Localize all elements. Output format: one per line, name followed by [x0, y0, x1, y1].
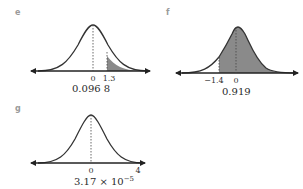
result-value-f: 0.919	[222, 86, 251, 97]
tick-label: −1.4	[204, 76, 223, 85]
normal-curve-f: −1.4 0	[150, 0, 303, 95]
bell-curve	[38, 115, 143, 163]
result-base: 3.17 × 10	[74, 176, 124, 187]
normal-curve-g: 0 4	[0, 95, 155, 175]
result-value-g: 3.17 × 10−5	[74, 175, 134, 187]
shaded-area	[219, 27, 293, 73]
tick-label: 4	[135, 166, 140, 175]
tick-label: 0	[90, 74, 95, 83]
normal-curve-e: 0 1.3	[0, 0, 155, 95]
tick-label: 0	[88, 166, 93, 175]
result-exponent: −5	[124, 175, 134, 183]
tick-label: 1.3	[103, 74, 116, 83]
tick-label: 0	[233, 76, 238, 85]
shaded-area	[107, 56, 140, 71]
result-value-e: 0.096 8	[72, 83, 110, 94]
